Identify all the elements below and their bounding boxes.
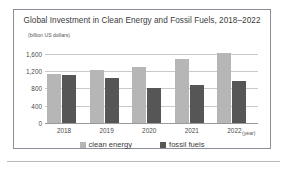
x-axis-tick-label: 2022 [227,127,241,134]
x-axis-tick-label: 2019 [99,127,113,134]
chart-title: Global Investment in Clean Energy and Fo… [14,16,270,25]
bar-fossil-fuels-2021[interactable] [190,85,204,123]
legend-swatch-icon [160,142,166,148]
legend-item-clean-energy[interactable]: clean energy [80,140,132,149]
bar-clean-energy-2020[interactable] [132,67,146,123]
x-axis-unit-label: (year) [242,130,256,136]
x-axis-tick-label: 2018 [57,127,71,134]
chart-figure-frame: Global Investment in Clean Energy and Fo… [13,9,271,149]
legend-item-fossil-fuels[interactable]: fossil fuels [160,140,204,149]
bar-group [173,45,216,123]
y-axis-tick-label: 1,600 [26,50,42,57]
bar-fossil-fuels-2019[interactable] [105,78,119,124]
bar-fossil-fuels-2022[interactable] [232,81,246,123]
y-axis-tick-label: 0 [38,120,42,127]
bar-group [88,45,131,123]
bar-group [215,45,258,123]
bar-clean-energy-2018[interactable] [47,74,61,123]
bar-group [130,45,173,123]
chart-legend: clean energyfossil fuels [14,140,270,149]
legend-label: clean energy [89,140,132,149]
y-axis-tick-label: 400 [31,102,42,109]
bar-clean-energy-2019[interactable] [90,70,104,123]
y-axis-tick-label: 800 [31,85,42,92]
legend-swatch-icon [80,142,86,148]
bars-layer [45,45,258,123]
bar-fossil-fuels-2018[interactable] [62,75,76,123]
bar-fossil-fuels-2020[interactable] [147,88,161,123]
bar-group [45,45,88,123]
x-axis-tick-label: 2020 [142,127,156,134]
plot-area: 04008001,2001,600 [45,45,258,123]
x-axis-tick-label: 2021 [185,127,199,134]
y-axis-unit-label: (billion US dollars) [28,32,70,38]
bar-clean-energy-2022[interactable] [217,53,231,123]
legend-label: fossil fuels [169,140,204,149]
bar-clean-energy-2021[interactable] [175,59,189,123]
y-axis-tick-label: 1,200 [26,68,42,75]
bottom-divider [7,161,280,162]
gridline [45,123,258,124]
